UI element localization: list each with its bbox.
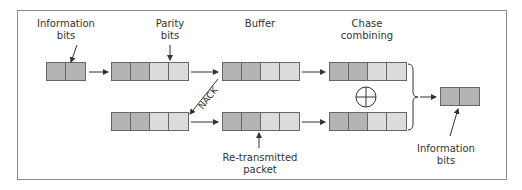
circle-plus-icon <box>356 87 376 107</box>
combine-brace <box>408 64 418 130</box>
connectors <box>0 0 522 190</box>
pointer-info-out <box>450 109 458 136</box>
arrow-nack <box>190 79 218 114</box>
pointer-info-bits <box>71 45 77 62</box>
